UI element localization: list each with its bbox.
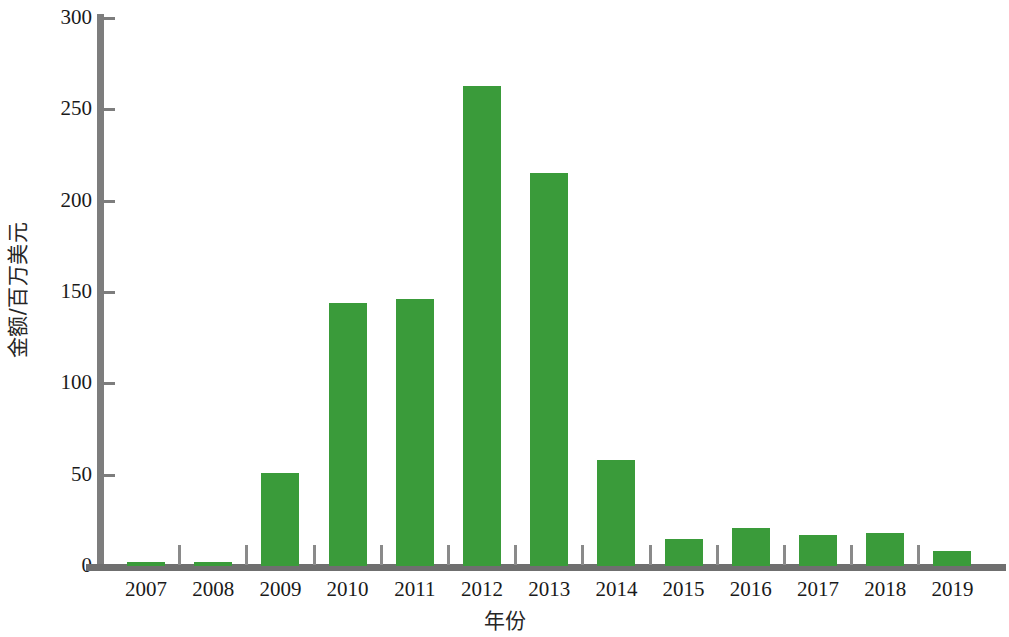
y-axis-tick-label: 100 bbox=[34, 372, 92, 393]
bar-2009 bbox=[261, 473, 299, 566]
x-axis-tick bbox=[313, 545, 316, 565]
y-axis-tick bbox=[104, 108, 115, 111]
x-axis-tick bbox=[514, 545, 517, 565]
bar-2012 bbox=[463, 86, 501, 566]
x-axis-tick bbox=[581, 545, 584, 565]
bar-2014 bbox=[597, 460, 635, 566]
bar-2015 bbox=[665, 539, 703, 566]
bar-chart: 金额/百万美元 050100150200250300 2007200820092… bbox=[0, 0, 1009, 637]
y-axis-title-label: 金额/百万美元 bbox=[1, 222, 31, 359]
y-axis-line bbox=[97, 14, 104, 570]
bar-2011 bbox=[396, 299, 434, 566]
bar-2010 bbox=[329, 303, 367, 566]
y-axis-tick bbox=[104, 474, 115, 477]
bar-2008 bbox=[194, 562, 232, 566]
y-axis-tick-label: 0 bbox=[34, 555, 92, 576]
x-axis-tick bbox=[380, 545, 383, 565]
x-axis-tick bbox=[850, 545, 853, 565]
axis-origin-marker bbox=[86, 564, 108, 571]
y-axis-title: 金额/百万美元 bbox=[0, 0, 32, 580]
x-axis-tick bbox=[245, 545, 248, 565]
y-axis-tick-label: 50 bbox=[34, 464, 92, 485]
y-axis-tick bbox=[104, 17, 115, 20]
y-axis-tick bbox=[104, 291, 115, 294]
y-axis-tick-label: 300 bbox=[34, 7, 92, 28]
y-axis-tick bbox=[104, 382, 115, 385]
x-axis-title: 年份 bbox=[0, 604, 1009, 634]
y-axis-tick-label: 250 bbox=[34, 98, 92, 119]
bar-2007 bbox=[127, 562, 165, 566]
bar-2017 bbox=[799, 535, 837, 566]
y-axis-tick-label: 200 bbox=[34, 190, 92, 211]
x-axis-tick bbox=[447, 545, 450, 565]
x-axis-tick bbox=[783, 545, 786, 565]
bar-2013 bbox=[530, 173, 568, 566]
y-axis-tick-label: 150 bbox=[34, 281, 92, 302]
x-axis-tick-label: 2019 bbox=[912, 577, 992, 601]
y-axis-tick-labels: 050100150200250300 bbox=[30, 0, 92, 600]
x-axis-tick bbox=[716, 545, 719, 565]
bar-2016 bbox=[732, 528, 770, 566]
x-axis-tick bbox=[917, 545, 920, 565]
y-axis-tick bbox=[104, 200, 115, 203]
x-axis-tick bbox=[649, 545, 652, 565]
bar-2018 bbox=[866, 533, 904, 566]
x-axis-tick bbox=[178, 545, 181, 565]
bar-2019 bbox=[933, 551, 971, 566]
